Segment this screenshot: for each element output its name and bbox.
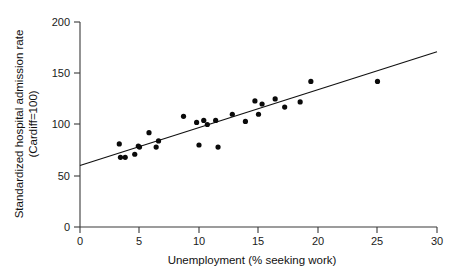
data-point xyxy=(259,101,264,106)
data-points-group xyxy=(117,79,380,160)
y-tick-label-150: 150 xyxy=(52,67,70,79)
y-tick-label-100: 100 xyxy=(52,118,70,130)
data-point xyxy=(215,144,220,149)
data-point xyxy=(252,98,257,103)
y-tick-label-200: 200 xyxy=(52,16,70,28)
data-point xyxy=(375,79,380,84)
data-point xyxy=(273,96,278,101)
data-point xyxy=(118,155,123,160)
plot-canvas: 200 150 100 50 0 0 5 10 15 20 25 30 Unem… xyxy=(0,0,463,274)
data-point xyxy=(282,104,287,109)
scatter-plot-figure: 200 150 100 50 0 0 5 10 15 20 25 30 Unem… xyxy=(0,0,463,274)
data-point xyxy=(156,138,161,143)
x-tick-label-10: 10 xyxy=(193,235,205,247)
data-point xyxy=(194,120,199,125)
data-point xyxy=(213,118,218,123)
y-axis-title-line1: Standardized hospital admission rate xyxy=(13,30,25,219)
y-tick-label-0: 0 xyxy=(64,221,70,233)
regression-line xyxy=(80,52,437,166)
y-axis-title-line2: (Cardiff=100) xyxy=(27,90,39,157)
x-tick-label-0: 0 xyxy=(77,235,83,247)
data-point xyxy=(196,142,201,147)
data-point xyxy=(146,130,151,135)
x-tick-label-30: 30 xyxy=(431,235,443,247)
data-point xyxy=(137,144,142,149)
data-point xyxy=(298,99,303,104)
x-tick-label-25: 25 xyxy=(371,235,383,247)
x-axis-title: Unemployment (% seeking work) xyxy=(168,254,337,266)
data-point xyxy=(243,119,248,124)
data-point xyxy=(123,155,128,160)
data-point xyxy=(308,79,313,84)
data-point xyxy=(230,112,235,117)
data-point xyxy=(117,141,122,146)
data-point xyxy=(132,152,137,157)
data-point xyxy=(154,144,159,149)
data-point xyxy=(256,112,261,117)
x-tick-label-5: 5 xyxy=(136,235,142,247)
data-point xyxy=(201,118,206,123)
data-point xyxy=(181,114,186,119)
x-tick-label-20: 20 xyxy=(312,235,324,247)
y-tick-label-50: 50 xyxy=(58,170,70,182)
x-tick-label-15: 15 xyxy=(252,235,264,247)
data-point xyxy=(205,122,210,127)
